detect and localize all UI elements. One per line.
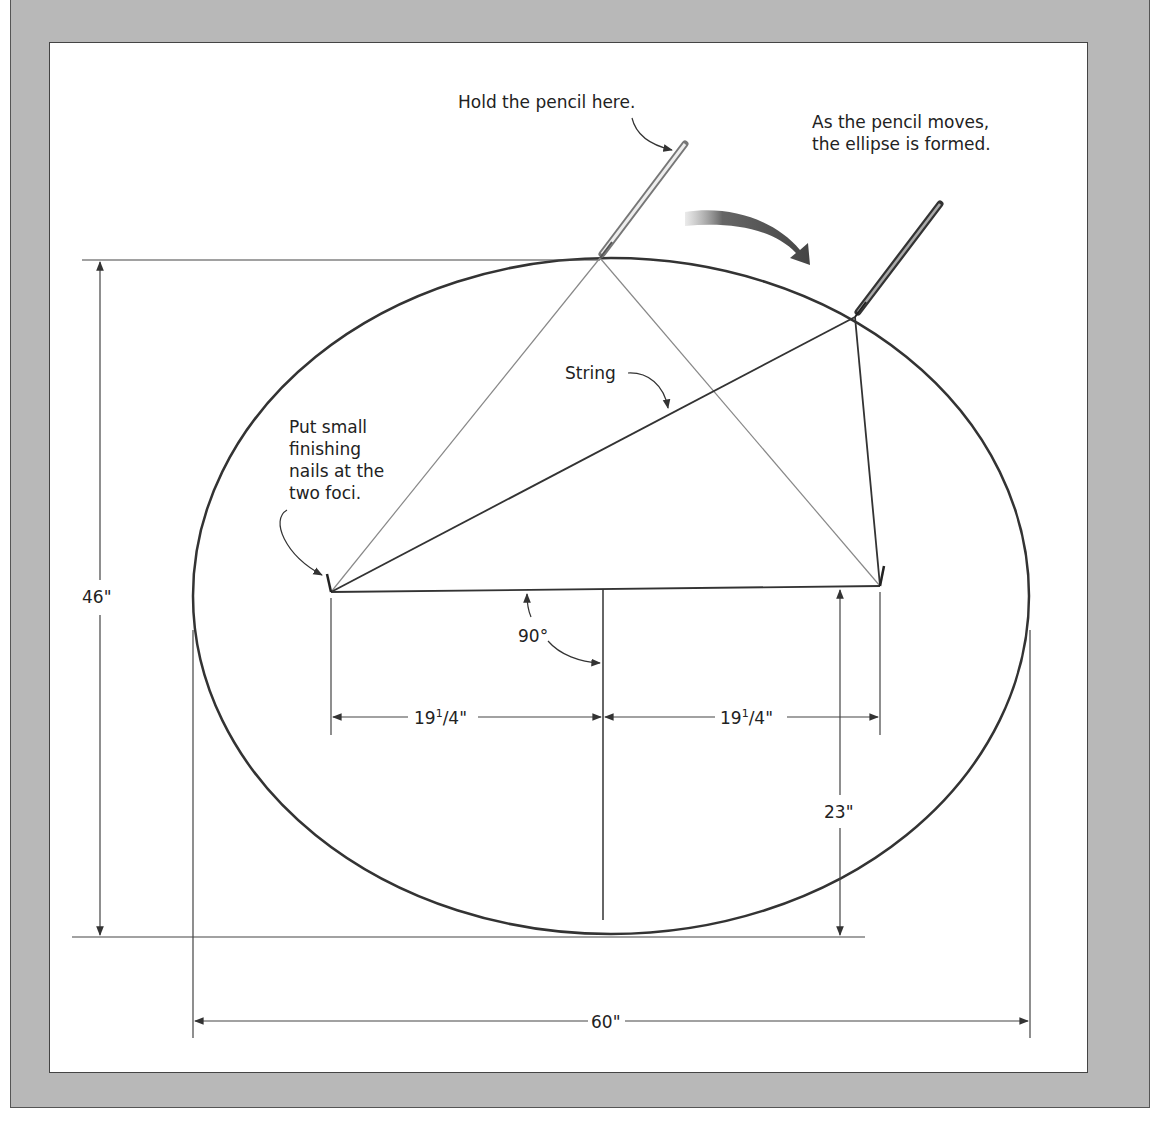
nails-label-line3: nails at the (289, 461, 384, 481)
nails-leader (280, 510, 322, 575)
string-pencil-to-right (855, 317, 880, 586)
string-label: String (565, 363, 616, 383)
string-left-to-top (331, 258, 600, 592)
string-left-to-pencil (331, 317, 855, 592)
left-focus-dimension-label: 191/4" (414, 707, 467, 728)
pencil-top-icon (600, 144, 685, 258)
width-dimension-label: 60" (591, 1012, 620, 1032)
string-top-to-right (600, 258, 880, 586)
right-angle-label: 90° (518, 626, 548, 646)
right-angle-leader-right (548, 641, 600, 663)
ellipse-outline (193, 258, 1029, 934)
motion-arrow-icon (685, 210, 810, 265)
nail-right-icon (880, 566, 884, 586)
nails-label-line1: Put small (289, 417, 367, 437)
right-angle-leader-up (527, 594, 531, 617)
nail-left-icon (327, 574, 331, 592)
pencil-moving-icon (855, 204, 940, 317)
height-dimension-label: 46" (82, 587, 111, 607)
nails-label-line2: finishing (289, 439, 361, 459)
pencil-moves-label-line1: As the pencil moves, (812, 112, 989, 132)
hold-pencil-label: Hold the pencil here. (458, 92, 635, 112)
right-focus-dimension-label: 191/4" (720, 707, 773, 728)
string-leader (628, 373, 668, 408)
nails-label-line4: two foci. (289, 483, 361, 503)
foci-line (331, 586, 880, 592)
half-height-dimension-label: 23" (824, 802, 853, 822)
pencil-moves-label-line2: the ellipse is formed. (812, 134, 991, 154)
hold-pencil-leader (632, 118, 672, 150)
